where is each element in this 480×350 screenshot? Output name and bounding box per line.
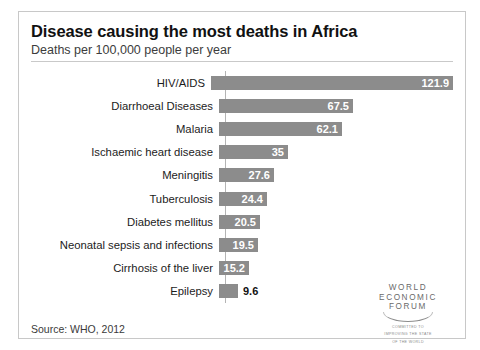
source-note: Source: WHO, 2012	[31, 323, 125, 335]
chart-row: Neonatal sepsis and infections 19.5	[31, 233, 453, 256]
chart-row: Tuberculosis 24.4	[31, 187, 453, 210]
bar-value-label: 20.5	[235, 216, 260, 228]
bar[interactable]: 27.6	[219, 168, 274, 182]
bar-track: 121.9	[211, 71, 453, 94]
chart-row: Diarrhoeal Diseases 67.5	[31, 94, 453, 117]
bar-value-label: 24.4	[242, 193, 267, 205]
bar-value-label: 67.5	[328, 100, 353, 112]
bar-track: 19.5	[219, 233, 453, 256]
slide-frame: Disease causing the most deaths in Afric…	[18, 11, 466, 339]
chart-subtitle: Deaths per 100,000 people per year	[31, 42, 453, 58]
category-label: Malaria	[31, 123, 219, 135]
bar-value-label: 19.5	[233, 239, 258, 251]
bar-track: 67.5	[219, 94, 453, 117]
bar-track: 35	[219, 141, 453, 164]
chart-row: Cirrhosis of the liver 15.2	[31, 257, 453, 280]
bar-chart-plot-area: HIV/AIDS 121.9 Diarrhoeal Diseases 67.5 …	[31, 71, 453, 303]
slide-content: Disease causing the most deaths in Afric…	[19, 12, 465, 338]
chart-row: Malaria 62.1	[31, 117, 453, 140]
bar-track: 27.6	[219, 164, 453, 187]
bar[interactable]: 15.2	[219, 261, 249, 275]
bar[interactable]: 20.5	[219, 215, 260, 229]
category-label: Epilepsy	[31, 285, 219, 297]
bar[interactable]: 35	[219, 145, 288, 159]
chart-title: Disease causing the most deaths in Afric…	[31, 22, 453, 41]
bar-track: 15.2	[219, 257, 453, 280]
bar-value-label: 35	[272, 146, 288, 158]
bar-track: 62.1	[219, 117, 453, 140]
logo-line-economic: ECONOMIC	[365, 293, 451, 303]
logo-tagline-line1: COMMITTED TO	[365, 325, 451, 330]
logo-line-world: WORLD	[365, 283, 451, 293]
category-label: Cirrhosis of the liver	[31, 262, 219, 274]
category-label: Neonatal sepsis and infections	[31, 239, 219, 251]
bar-value-label: 27.6	[249, 169, 274, 181]
category-label: Diarrhoeal Diseases	[31, 100, 219, 112]
chart-row: HIV/AIDS 121.9	[31, 71, 453, 94]
bar-value-label: 62.1	[317, 123, 342, 135]
bar[interactable]: 9.6	[219, 284, 238, 298]
category-label: Ischaemic heart disease	[31, 146, 219, 158]
bar[interactable]: 121.9	[211, 76, 453, 90]
bar[interactable]: 24.4	[219, 192, 267, 206]
bar-value-label: 15.2	[224, 262, 249, 274]
bar-value-label: 9.6	[238, 285, 258, 297]
bar-track: 20.5	[219, 210, 453, 233]
chart-row: Diabetes mellitus 20.5	[31, 210, 453, 233]
logo-swoosh-icon	[383, 312, 433, 322]
bar[interactable]: 19.5	[219, 238, 258, 252]
chart-footer: Source: WHO, 2012 WORLD ECONOMIC FORUM C…	[31, 311, 453, 350]
bar[interactable]: 67.5	[219, 99, 353, 113]
bar-value-label: 121.9	[421, 77, 453, 89]
chart-row: Meningitis 27.6	[31, 164, 453, 187]
header-divider	[31, 61, 453, 62]
logo-line-forum: FORUM	[365, 302, 451, 312]
category-label: Tuberculosis	[31, 193, 219, 205]
world-economic-forum-logo: WORLD ECONOMIC FORUM COMMITTED TO IMPROV…	[365, 283, 451, 344]
category-label: Meningitis	[31, 169, 219, 181]
logo-tagline-line3: OF THE WORLD	[365, 340, 451, 345]
category-label: Diabetes mellitus	[31, 216, 219, 228]
bar[interactable]: 62.1	[219, 122, 342, 136]
bar-track: 24.4	[219, 187, 453, 210]
category-label: HIV/AIDS	[31, 77, 211, 89]
logo-tagline-line2: IMPROVING THE STATE	[365, 332, 451, 337]
chart-row: Ischaemic heart disease 35	[31, 141, 453, 164]
